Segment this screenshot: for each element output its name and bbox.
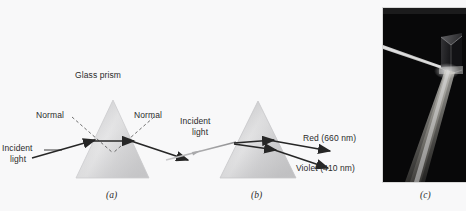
incident-light-label-b-line1: Incident bbox=[180, 116, 211, 127]
panel-caption-a: (a) bbox=[106, 190, 117, 200]
panel-caption-c: (c) bbox=[420, 190, 431, 200]
incident-light-label-a-line2: light bbox=[10, 154, 26, 165]
glass-prism-shape-b bbox=[220, 101, 296, 178]
violet-wavelength-label: Violet (410 nm) bbox=[296, 163, 355, 174]
panel-c-photograph: (c) bbox=[370, 0, 466, 211]
panel-b-dispersion: Incident light Red (660 nm) Violet (410 … bbox=[170, 0, 370, 211]
incident-beam-b bbox=[166, 142, 236, 160]
prism-refraction-figure: Glass prism Normal Normal Incident light… bbox=[0, 0, 466, 211]
incident-light-label-b-line2: light bbox=[192, 127, 208, 138]
normal-right-label: Normal bbox=[134, 110, 162, 121]
incident-light-label-a-line1: Incident bbox=[2, 143, 33, 154]
red-wavelength-label: Red (660 nm) bbox=[303, 133, 356, 144]
glass-prism-label: Glass prism bbox=[58, 70, 138, 81]
panel-caption-b: (b) bbox=[251, 190, 262, 200]
photo-content bbox=[383, 8, 466, 182]
panel-a-drawing bbox=[0, 0, 190, 211]
normal-left-label: Normal bbox=[36, 110, 64, 121]
panel-b-drawing bbox=[170, 0, 370, 211]
prism-photograph bbox=[383, 8, 466, 182]
panel-a-single-ray-refraction: Glass prism Normal Normal Incident light… bbox=[0, 0, 190, 211]
